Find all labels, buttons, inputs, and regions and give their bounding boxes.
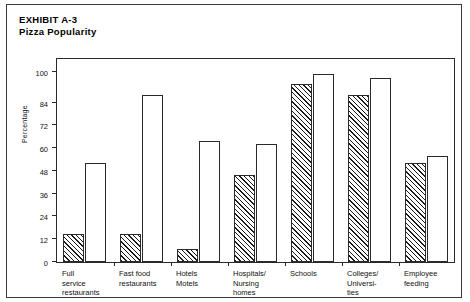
x-axis-category-label: HotelsMotels [176, 269, 198, 288]
y-axis-tick-label: 84 [40, 99, 48, 108]
category-label-line: Full [62, 269, 100, 279]
bar-hatched-0 [63, 234, 84, 262]
category-label-line: restaurants [119, 279, 157, 289]
bar-open-2 [199, 141, 220, 262]
category-label-line: service [62, 279, 100, 289]
y-axis-tick [52, 71, 57, 72]
category-label-line: Universi- [347, 279, 378, 289]
y-axis-tick-label: 100 [35, 69, 48, 78]
y-axis-tick-label: 12 [40, 236, 48, 245]
y-axis-tick-label: 36 [40, 190, 48, 199]
x-axis-separator-tick [228, 262, 229, 266]
category-label-line: Employee [404, 269, 437, 279]
x-axis-separator-tick [285, 262, 286, 266]
y-axis-tick [52, 102, 57, 103]
bar-open-0 [85, 163, 106, 262]
bar-open-3 [256, 144, 277, 262]
x-axis-category-label: Schools [290, 269, 317, 279]
title-block: EXHIBIT A-3 Pizza Popularity [19, 14, 97, 38]
x-axis-separator-tick [399, 262, 400, 266]
category-label-line: ties [347, 288, 378, 298]
y-axis-tick [52, 261, 57, 262]
x-axis-separator-tick [342, 262, 343, 266]
bar-hatched-1 [120, 234, 141, 262]
plot-area [56, 58, 455, 263]
bar-open-5 [370, 78, 391, 262]
page-title: Pizza Popularity [19, 26, 97, 38]
bars-layer [57, 59, 454, 262]
category-label-line: feeding [404, 279, 437, 289]
category-label-line: Hotels [176, 269, 198, 279]
category-label-line: Motels [176, 279, 198, 289]
x-axis-category-label: Hospitals/Nursinghomes [233, 269, 266, 298]
figure-frame: EXHIBIT A-3 Pizza Popularity Percentage … [6, 4, 462, 298]
category-label-line: Colleges/ [347, 269, 378, 279]
x-axis-separator-tick [114, 262, 115, 266]
x-axis-category-label: Fast foodrestaurants [119, 269, 157, 288]
y-axis-tick-label: 72 [40, 122, 48, 131]
exhibit-label: EXHIBIT A-3 [19, 14, 97, 26]
category-label-line: Fast food [119, 269, 157, 279]
y-axis-tick [52, 170, 57, 171]
x-axis-category-label: Colleges/Universi-ties [347, 269, 378, 298]
y-axis-tick-label: 60 [40, 145, 48, 154]
bar-hatched-6 [405, 163, 426, 262]
bar-hatched-4 [291, 84, 312, 262]
y-axis-tick-label: 24 [40, 213, 48, 222]
category-label-line: Schools [290, 269, 317, 279]
y-axis-tick [52, 238, 57, 239]
y-axis-tick [52, 147, 57, 148]
bar-open-1 [142, 95, 163, 262]
y-axis-tick-label: 0 [44, 259, 48, 268]
x-axis-category-label: Fullservicerestaurants [62, 269, 100, 298]
x-axis-separator-tick [171, 262, 172, 266]
y-axis-tick [52, 215, 57, 216]
category-label-line: Nursing [233, 279, 266, 289]
x-axis-category-label: Employeefeeding [404, 269, 437, 288]
category-label-line: restaurants [62, 288, 100, 298]
bar-hatched-2 [177, 249, 198, 262]
y-axis-title: Percentage [21, 105, 28, 143]
y-axis-tick-label: 48 [40, 167, 48, 176]
y-axis-tick [52, 124, 57, 125]
bar-hatched-3 [234, 175, 255, 262]
category-label-line: homes [233, 288, 266, 298]
bar-open-4 [313, 74, 334, 262]
x-axis-category-labels: FullservicerestaurantsFast foodrestauran… [56, 269, 455, 302]
bar-hatched-5 [348, 95, 369, 262]
bar-open-6 [427, 156, 448, 262]
y-axis-tick [52, 193, 57, 194]
category-label-line: Hospitals/ [233, 269, 266, 279]
